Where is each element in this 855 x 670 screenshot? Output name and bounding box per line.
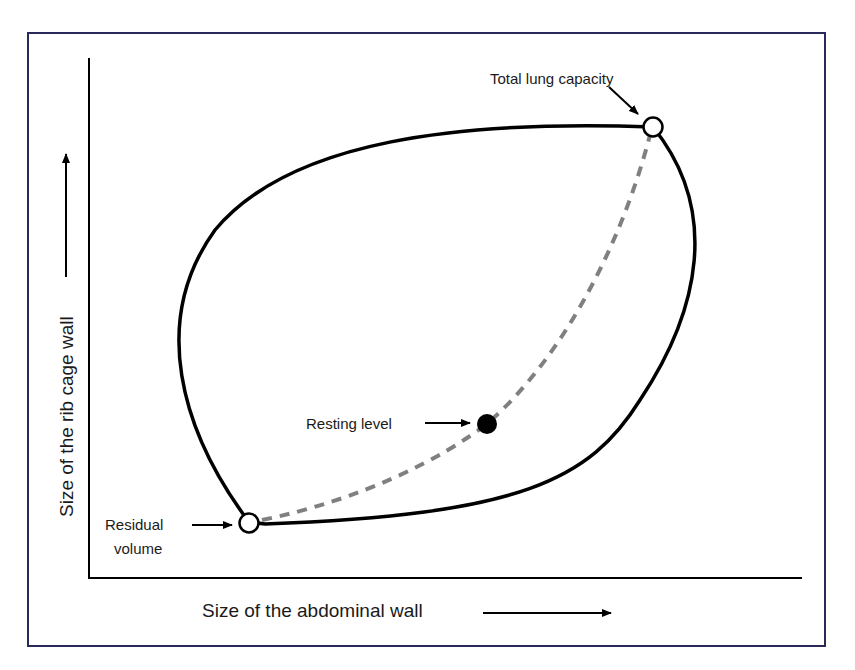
total-lung-capacity-marker: [644, 118, 663, 137]
residual-volume-marker: [240, 514, 259, 533]
residual-volume-label-line1: Residual: [105, 516, 163, 533]
axes: [88, 58, 802, 578]
x-axis-title: Size of the abdominal wall: [202, 600, 423, 621]
total-lung-capacity-label: Total lung capacity: [490, 70, 614, 87]
loop-curve: [179, 126, 695, 524]
resting-level-marker: [477, 414, 497, 434]
resting-level-label: Resting level: [306, 415, 392, 432]
relaxation-dashed-line: [262, 135, 650, 520]
residual-volume-label-line2: volume: [114, 540, 162, 557]
total-lung-capacity-arrow-icon: [609, 87, 638, 114]
y-axis-title: Size of the rib cage wall: [56, 316, 77, 517]
diagram-canvas: Total lung capacity Resting level Residu…: [0, 0, 855, 670]
